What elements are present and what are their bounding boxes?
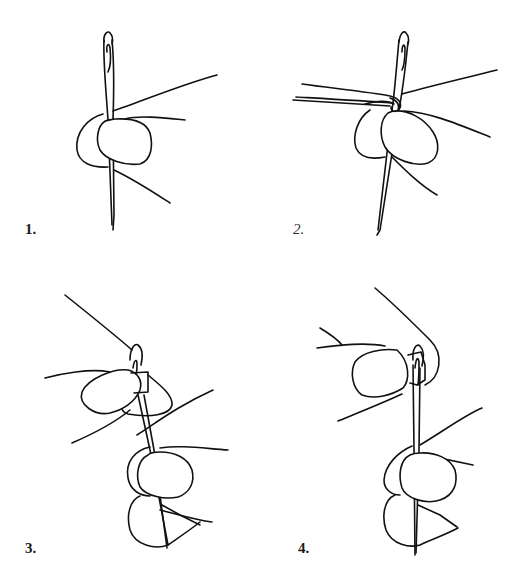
panel-2-illustration	[293, 32, 497, 235]
lower-hand-outline-top	[420, 408, 482, 445]
step-label-1: 1.	[25, 222, 36, 237]
lower-crease	[162, 505, 200, 525]
thread-top	[65, 295, 132, 350]
lower-thumb	[400, 453, 456, 502]
upper-hand-outline-bottom	[72, 410, 130, 443]
lower-thumb	[138, 452, 193, 498]
panel-4-illustration	[317, 288, 482, 555]
thread-lower	[293, 100, 390, 106]
thumb	[97, 119, 151, 165]
needle-threading-diagram: 1. 2. 3. 4.	[0, 0, 525, 575]
step-label-3: 3.	[25, 541, 36, 556]
upper-hand-outline-top	[317, 344, 385, 348]
upper-hand-outline-extra	[320, 328, 342, 345]
needle-eye-top	[104, 32, 113, 44]
hand-outline-bottom	[114, 170, 170, 203]
needle-eye	[415, 359, 419, 385]
upper-thumb	[81, 370, 140, 414]
panel-1-illustration	[77, 32, 217, 230]
needle-eye	[402, 45, 405, 70]
needle-eye-top	[130, 345, 142, 365]
pinched-thread	[408, 352, 425, 385]
needle-eye-top	[399, 32, 409, 44]
step-label-2: 2.	[293, 222, 304, 237]
needle-eye	[107, 45, 111, 72]
upper-thumb	[352, 350, 407, 398]
lower-finger-outline	[160, 447, 228, 450]
upper-hand-outline-bottom	[338, 394, 402, 421]
lower-crease	[418, 505, 457, 527]
step-label-4: 4.	[298, 541, 309, 556]
lower-hand-outline-top	[137, 390, 213, 435]
hand-outline-top	[402, 70, 497, 94]
lower-hand-outline-bottom	[160, 510, 212, 522]
hand-outline-top	[113, 75, 217, 111]
thumb	[381, 111, 438, 164]
thread-upper	[302, 84, 401, 108]
diagram-illustration	[0, 0, 525, 575]
panel-3-illustration	[45, 295, 228, 548]
